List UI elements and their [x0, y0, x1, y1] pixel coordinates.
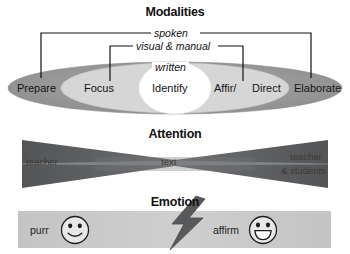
emotion-title: Emotion [0, 196, 350, 209]
node-identify[interactable]: Identify [152, 83, 187, 94]
node-prepare[interactable]: Prepare [17, 83, 56, 94]
attention-label-students-right: & students [281, 166, 326, 176]
node-focus[interactable]: Focus [84, 83, 114, 94]
node-elaborate[interactable]: Elaborate [294, 83, 341, 94]
node-direct[interactable]: Direct [252, 83, 281, 94]
modalities-title: Modalities [0, 6, 350, 19]
emotion-label-affirm: affirm [213, 225, 239, 236]
emotion-label-purr: purr [30, 225, 49, 236]
bracket-label-spoken: spoken [151, 28, 191, 39]
bracket-label-visual-manual: visual & manual [133, 41, 213, 52]
bracket-label-written: written [152, 62, 189, 73]
attention-label-teacher-right: teacher [290, 152, 322, 162]
node-affir[interactable]: Affir/ [214, 83, 236, 94]
attention-title: Attention [0, 128, 350, 141]
attention-label-text: text [161, 157, 176, 167]
figure-canvas: Modalities spoken visual & manual writte… [0, 0, 350, 254]
smiley-open-grin-icon [250, 217, 277, 244]
smiley-closed-smile-icon [62, 217, 89, 244]
attention-label-teacher-left: teacher [26, 157, 58, 167]
